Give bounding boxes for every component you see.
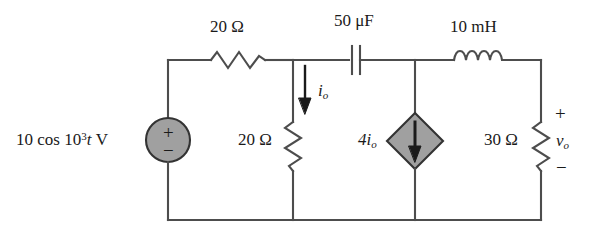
- label-voltage-vo: vo: [556, 132, 569, 151]
- label-resistor-20-ohm-shunt: 20 Ω: [238, 131, 272, 148]
- circuit-schematic-canvas: [0, 0, 606, 246]
- label-voltage-vo-base: v: [556, 131, 564, 150]
- resistor-20-ohm-series-body: [211, 52, 265, 68]
- label-capacitor-50-uf: 50 μF: [334, 12, 374, 29]
- label-dependent-source-subscript: o: [371, 138, 377, 150]
- inductor-10-mh-body: [454, 51, 508, 60]
- label-voltage-vo-subscript: o: [564, 139, 570, 151]
- label-current-io-subscript: o: [323, 89, 329, 101]
- label-resistor-20-ohm-series: 20 Ω: [210, 18, 244, 35]
- label-voltage-source-amplitude: 10 cos 10: [16, 130, 81, 149]
- circuit-figure: 10 cos 103t V + − 20 Ω 50 μF 10 mH 20 Ω …: [0, 0, 606, 246]
- label-inductor-10-mh: 10 mH: [450, 18, 497, 35]
- label-vo-plus-sign: +: [555, 104, 566, 123]
- resistor-30-ohm-load-body: [533, 122, 549, 171]
- label-resistor-30-ohm-load: 30 Ω: [484, 131, 518, 148]
- label-voltage-source-unit: V: [96, 130, 108, 149]
- label-voltage-source: 10 cos 103t V: [16, 131, 108, 148]
- label-voltage-source-variable: t: [87, 130, 92, 149]
- label-dependent-source-base: 4i: [358, 130, 371, 149]
- resistor-20-ohm-shunt-body: [285, 122, 301, 171]
- current-io-arrow-head: [299, 98, 311, 114]
- label-dependent-source: 4io: [358, 131, 377, 150]
- label-current-io: io: [318, 82, 328, 101]
- label-vo-minus-sign: −: [556, 158, 567, 177]
- voltage-source-minus-sign: −: [163, 141, 174, 160]
